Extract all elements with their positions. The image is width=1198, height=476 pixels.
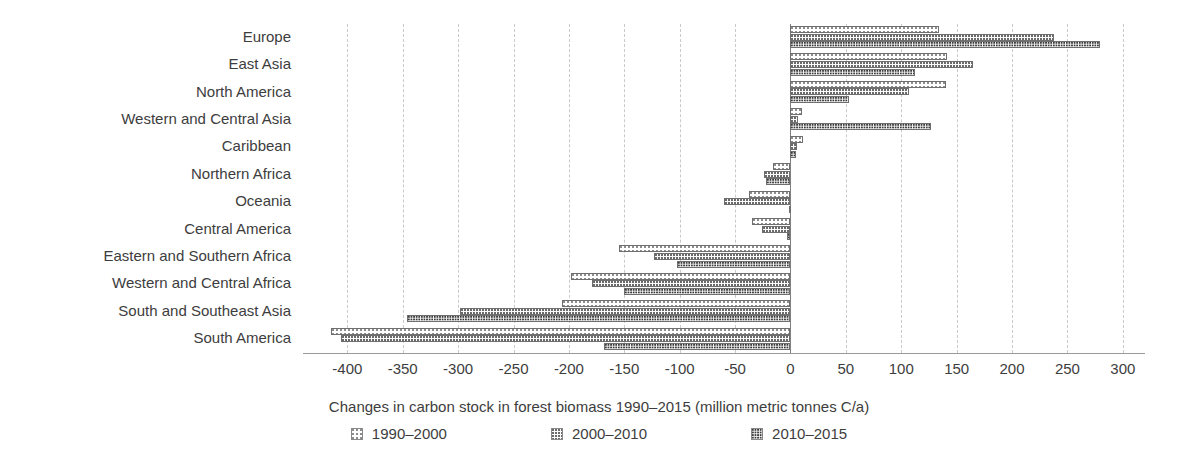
legend-swatch-icon xyxy=(751,428,763,440)
category-label: Oceania xyxy=(0,194,291,208)
x-tick-label: 100 xyxy=(889,360,914,377)
bar xyxy=(752,218,791,225)
x-tick-label: -350 xyxy=(388,360,418,377)
bar xyxy=(341,335,791,342)
bar xyxy=(331,328,791,335)
bar xyxy=(677,261,790,268)
x-tick-label: 300 xyxy=(1110,360,1135,377)
legend-item-1990-2000: 1990–2000 xyxy=(351,425,447,442)
gridline xyxy=(1123,24,1124,353)
category-label: Western and Central Africa xyxy=(0,276,291,290)
x-tick-label: 50 xyxy=(838,360,855,377)
bar xyxy=(790,26,938,33)
category-label: South and Southeast Asia xyxy=(0,304,291,318)
bar xyxy=(790,108,801,115)
bar xyxy=(790,136,802,143)
bar xyxy=(790,34,1054,41)
chart-figure: EuropeEast AsiaNorth AmericaWestern and … xyxy=(0,0,1198,476)
category-axis: EuropeEast AsiaNorth AmericaWestern and … xyxy=(0,24,295,353)
bar xyxy=(790,96,849,103)
x-tick-label: -400 xyxy=(332,360,362,377)
x-tick-label: -150 xyxy=(609,360,639,377)
bar xyxy=(762,226,791,233)
category-label: Eastern and Southern Africa xyxy=(0,249,291,263)
x-tick-label: -200 xyxy=(554,360,584,377)
bar xyxy=(790,69,914,76)
bar xyxy=(789,206,791,213)
x-tick-label: 150 xyxy=(944,360,969,377)
category-label: East Asia xyxy=(0,57,291,71)
bar xyxy=(787,233,790,240)
legend-label: 2000–2010 xyxy=(572,425,647,442)
gridline xyxy=(347,24,348,353)
bar xyxy=(790,123,931,130)
bar xyxy=(790,88,909,95)
gridline xyxy=(458,24,459,353)
legend-item-2000-2010: 2000–2010 xyxy=(551,425,647,442)
gridline xyxy=(403,24,404,353)
bar xyxy=(790,81,945,88)
bar xyxy=(764,171,791,178)
bar xyxy=(790,61,973,68)
category-label: Central America xyxy=(0,222,291,236)
x-tick-label: 250 xyxy=(1055,360,1080,377)
bar xyxy=(790,116,798,123)
bar xyxy=(790,151,796,158)
bar xyxy=(460,308,790,315)
bar xyxy=(571,273,790,280)
bar xyxy=(766,178,790,185)
bar xyxy=(624,288,790,295)
bar xyxy=(592,280,790,287)
bar xyxy=(790,143,797,150)
x-tick-label: 200 xyxy=(1000,360,1025,377)
category-label: Europe xyxy=(0,30,291,44)
legend-label: 1990–2000 xyxy=(372,425,447,442)
bar xyxy=(749,191,790,198)
category-label: North America xyxy=(0,85,291,99)
category-label: Northern Africa xyxy=(0,167,291,181)
x-tick-label: -300 xyxy=(443,360,473,377)
bar xyxy=(790,53,946,60)
bar xyxy=(773,163,791,170)
gridline xyxy=(1067,24,1068,353)
gridline xyxy=(1012,24,1013,353)
x-axis-label: Changes in carbon stock in forest biomas… xyxy=(0,398,1198,415)
x-tick-label: -250 xyxy=(498,360,528,377)
plot-area xyxy=(303,24,1145,353)
gridline xyxy=(514,24,515,353)
legend-swatch-icon xyxy=(351,428,363,440)
category-label: Caribbean xyxy=(0,139,291,153)
category-label: South America xyxy=(0,331,291,345)
x-tick-label: -50 xyxy=(724,360,746,377)
chart-legend: 1990–2000 2000–2010 2010–2015 xyxy=(0,425,1198,442)
bar xyxy=(407,315,790,322)
bar xyxy=(654,253,790,260)
bar xyxy=(604,343,790,350)
bar xyxy=(619,245,791,252)
x-tick-label: 0 xyxy=(786,360,794,377)
legend-item-2010-2015: 2010–2015 xyxy=(751,425,847,442)
x-tick-label: -100 xyxy=(665,360,695,377)
legend-label: 2010–2015 xyxy=(772,425,847,442)
bar xyxy=(724,198,790,205)
legend-swatch-icon xyxy=(551,428,563,440)
gridline xyxy=(957,24,958,353)
bar xyxy=(790,41,1099,48)
bar xyxy=(562,300,790,307)
category-label: Western and Central Asia xyxy=(0,112,291,126)
x-axis-line xyxy=(303,353,1145,354)
